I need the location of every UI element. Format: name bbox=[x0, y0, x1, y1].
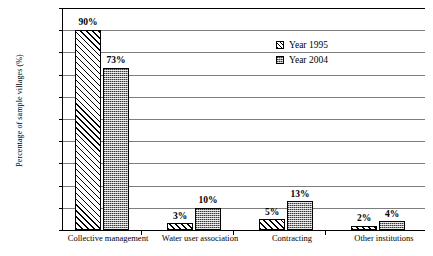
bar-group-container: 90% 73% 3% 10% 5% 13% 2% 4% bbox=[63, 8, 425, 230]
plot-area: 100% 90% 80% 70% 60% 50% 40% 30% 20% 10%… bbox=[62, 8, 425, 231]
bar-2004-water-user-association bbox=[195, 208, 221, 230]
bar-label-2004-contracting: 13% bbox=[291, 189, 310, 199]
bar-label-2004-water-user-association: 10% bbox=[199, 195, 218, 205]
bar-1995-contracting bbox=[259, 219, 285, 230]
category-label-other-institutions: Other institutions bbox=[354, 233, 413, 243]
bar-2004-contracting bbox=[287, 201, 313, 230]
bar-label-1995-other-institutions: 2% bbox=[357, 213, 371, 223]
y-axis-title: Percentage of sample villages (%) bbox=[15, 16, 24, 206]
category-label-contracting: Contracting bbox=[272, 233, 312, 243]
legend-label-2004: Year 2004 bbox=[289, 55, 328, 65]
chart-legend: Year 1995 Year 2004 bbox=[276, 37, 328, 67]
category-label-collective-management: Collective management bbox=[68, 233, 148, 243]
bar-1995-other-institutions bbox=[351, 226, 377, 230]
ytick-mark-0 bbox=[59, 230, 63, 231]
bar-chart: Percentage of sample villages (%) 100% 9… bbox=[0, 0, 433, 256]
legend-item-2004: Year 2004 bbox=[276, 52, 328, 67]
category-tick-3 bbox=[325, 230, 326, 235]
bar-label-1995-contracting: 5% bbox=[265, 207, 279, 217]
legend-swatch-2004-icon bbox=[276, 56, 284, 64]
bar-label-1995-water-user-association: 3% bbox=[173, 211, 187, 221]
bar-label-2004-other-institutions: 4% bbox=[385, 209, 399, 219]
legend-item-1995: Year 1995 bbox=[276, 37, 328, 52]
bar-2004-collective-management bbox=[103, 68, 129, 230]
bar-1995-water-user-association bbox=[167, 223, 193, 230]
legend-swatch-1995-icon bbox=[276, 41, 284, 49]
legend-label-1995: Year 1995 bbox=[289, 40, 328, 50]
bar-label-2004-collective-management: 73% bbox=[107, 55, 126, 65]
category-label-water-user-association: Water user association bbox=[162, 233, 238, 243]
bar-1995-collective-management bbox=[75, 30, 101, 230]
bar-label-1995-collective-management: 90% bbox=[79, 17, 98, 27]
bar-2004-other-institutions bbox=[379, 221, 405, 230]
